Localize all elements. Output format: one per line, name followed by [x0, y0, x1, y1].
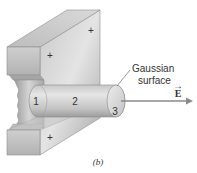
charge-mark: +	[88, 25, 94, 36]
slab-top-ledge	[9, 75, 44, 80]
charge-mark: +	[47, 50, 53, 61]
region-3-label: 3	[112, 106, 118, 117]
charge-mark: +	[47, 132, 53, 143]
region-2-label: 2	[72, 96, 78, 107]
field-vector-arrow-icon: →	[173, 80, 183, 91]
leader-line	[117, 70, 130, 86]
gaussian-surface-diagram: + + + 1 2 3 Gaussian surface E → (b)	[0, 0, 197, 173]
gaussian-surface-annotation: Gaussian surface	[117, 63, 174, 86]
gaussian-cylinder: 1 2 3	[29, 85, 125, 117]
slab-top-front-face	[7, 47, 40, 75]
charged-slab: + + +	[7, 10, 100, 155]
slab-bottom-front-face	[7, 130, 40, 155]
gaussian-label-line2: surface	[138, 75, 171, 86]
field-arrow-head-icon	[186, 98, 193, 105]
figure-caption: (b)	[93, 157, 104, 167]
gaussian-label-line1: Gaussian	[132, 63, 174, 74]
region-1-label: 1	[33, 96, 39, 107]
